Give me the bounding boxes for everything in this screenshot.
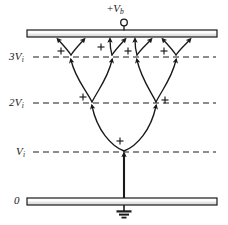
plus-mark bbox=[58, 48, 65, 55]
path-vi-to-2vi-right bbox=[124, 106, 156, 151]
bias-symbol: V bbox=[113, 2, 120, 14]
bias-voltage-label: +Vb bbox=[107, 2, 124, 16]
plus-mark bbox=[80, 94, 87, 101]
level-3vi-symbol: V bbox=[15, 50, 22, 62]
path-3vi-d-to-plate-2 bbox=[176, 40, 190, 56]
level-vi-subscript: i bbox=[23, 150, 25, 159]
terminal-circle-icon bbox=[121, 19, 128, 26]
avalanche-paths bbox=[58, 40, 190, 201]
plus-mark bbox=[161, 48, 168, 55]
plus-mark bbox=[98, 44, 105, 51]
level-zero-symbol: 0 bbox=[14, 194, 20, 206]
level-label-vi: Vi bbox=[16, 145, 25, 159]
bias-terminal[interactable] bbox=[121, 19, 128, 30]
path-3vi-d-to-plate-1 bbox=[163, 40, 176, 56]
avalanche-diagram: +Vb 3Vi 2Vi Vi 0 bbox=[0, 0, 228, 225]
path-3vi-b-to-plate-2 bbox=[112, 40, 125, 56]
path-2vi-l-to-3vi-b bbox=[92, 60, 112, 102]
path-2vi-l-to-3vi-a bbox=[71, 60, 92, 102]
path-3vi-b-to-plate-1 bbox=[110, 40, 112, 56]
level-vi-symbol: V bbox=[16, 145, 23, 157]
diagram-canvas bbox=[0, 0, 228, 225]
level-label-2vi: 2Vi bbox=[9, 96, 24, 110]
level-2vi-subscript: i bbox=[22, 101, 24, 110]
bias-subscript: b bbox=[120, 7, 124, 16]
path-3vi-a-to-plate-2 bbox=[71, 40, 84, 56]
path-3vi-a-to-plate-1 bbox=[58, 40, 71, 56]
path-2vi-r-to-3vi-c bbox=[137, 60, 156, 102]
plus-mark bbox=[125, 48, 132, 55]
path-3vi-c-to-plate-1 bbox=[135, 40, 137, 56]
level-3vi-subscript: i bbox=[22, 55, 24, 64]
bottom-plate bbox=[27, 198, 217, 205]
plus-mark bbox=[117, 138, 124, 145]
path-3vi-c-to-plate-2 bbox=[137, 40, 151, 56]
ground-icon bbox=[117, 205, 132, 218]
top-plate bbox=[27, 30, 217, 37]
level-label-3vi: 3Vi bbox=[9, 50, 24, 64]
level-lines bbox=[33, 57, 216, 152]
path-vi-to-2vi-left bbox=[92, 106, 124, 151]
path-2vi-r-to-3vi-d bbox=[156, 60, 176, 102]
level-label-zero: 0 bbox=[14, 194, 20, 206]
level-2vi-symbol: V bbox=[15, 96, 22, 108]
